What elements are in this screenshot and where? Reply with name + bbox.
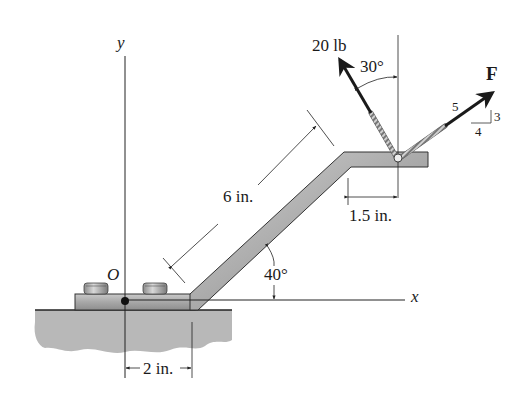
ground xyxy=(35,310,232,353)
bolt-left xyxy=(84,283,108,294)
force-20lb-label: 20 lb xyxy=(312,37,346,54)
angle-30-label: 30° xyxy=(360,58,384,75)
x-axis-label: x xyxy=(411,288,419,305)
angle-40-label: 40° xyxy=(264,266,288,283)
dim-6in-label: 6 in. xyxy=(223,188,253,205)
origin-point xyxy=(121,297,129,305)
dim-1-5in-label: 1.5 in. xyxy=(349,207,392,224)
dim-1-5in xyxy=(348,178,397,205)
slope-triangle xyxy=(471,110,491,123)
angle-30-arc xyxy=(358,77,397,88)
y-axis-label: y xyxy=(117,34,125,51)
attachment-point xyxy=(394,154,402,162)
diagram-canvas xyxy=(0,0,529,400)
slope-hyp-label: 5 xyxy=(452,100,459,113)
force-F-label: F xyxy=(486,64,498,83)
bolt-right xyxy=(143,283,167,294)
origin-label: O xyxy=(107,266,119,283)
base-plate xyxy=(75,294,195,310)
bracket-diagram: y x O 20 lb 30° F 5 3 4 6 in. 1.5 in. 40… xyxy=(0,0,529,400)
dim-2in-label: 2 in. xyxy=(143,360,173,377)
bent-bracket xyxy=(190,152,428,310)
slope-rise-label: 3 xyxy=(494,110,501,123)
slope-run-label: 4 xyxy=(475,125,482,138)
